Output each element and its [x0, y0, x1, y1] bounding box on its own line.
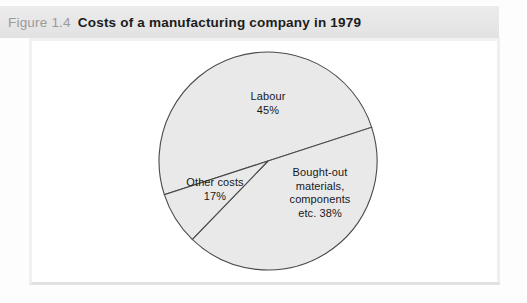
- figure-title-band: Figure 1.4 Costs of a manufacturing comp…: [0, 6, 499, 38]
- figure-container: Figure 1.4 Costs of a manufacturing comp…: [0, 0, 527, 303]
- figure-caption: Costs of a manufacturing company in 1979: [78, 15, 361, 30]
- figure-number: Figure 1.4: [8, 15, 71, 30]
- chart-panel: [29, 38, 500, 285]
- panel-bottom-shadow: [32, 282, 500, 285]
